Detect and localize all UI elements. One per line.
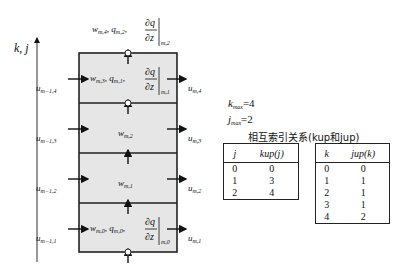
table-row: 21 — [316, 187, 390, 199]
tables-title: 相互索引关系(kup和jup) — [248, 129, 359, 144]
jup-header-k: k — [316, 144, 338, 163]
q-node-mid — [125, 100, 131, 106]
kup-header-kup: kup(j) — [246, 144, 299, 163]
inflow-label-4: um−1,4 — [36, 83, 56, 94]
dq-eval-bottom: m,0 — [161, 239, 170, 245]
kup-header-j: j — [224, 144, 246, 163]
jmax-param: jmax=2 — [228, 113, 253, 126]
dq-numerator-mid: ∂q — [145, 66, 155, 77]
table-row: 00 — [224, 163, 299, 176]
axis-label: k, j — [14, 41, 29, 56]
dq-eval-top: m,2 — [161, 40, 170, 46]
jup-header-jup: jup(k) — [337, 144, 389, 163]
inflow-label-1: um−1,1 — [36, 233, 56, 244]
layer-3-label: wm,2 — [118, 128, 133, 139]
inflow-label-2: um−1,2 — [36, 183, 56, 194]
top-flux-label: wm,4, qm,2, — [92, 24, 127, 35]
layer-2-label: wm,1 — [118, 178, 133, 189]
q-node-bottom — [125, 249, 131, 255]
dq-numerator-top: ∂q — [145, 17, 155, 28]
kmax-param: kmax=4 — [228, 97, 255, 110]
dq-eval-mid: m,1 — [161, 89, 170, 95]
layer-1-label: wm,0, qm,0, — [90, 223, 125, 234]
table-row: 00 — [316, 163, 390, 176]
outflow-label-2: um,2 — [188, 183, 201, 194]
kup-table: j kup(j) 00 13 24 — [223, 143, 299, 200]
outflow-label-3: um,3 — [188, 133, 201, 144]
dq-denominator-bottom: ∂z — [145, 231, 154, 242]
outflow-label-1: um,1 — [188, 233, 201, 244]
dq-denominator-top: ∂z — [145, 32, 154, 43]
dq-denominator-mid: ∂z — [145, 81, 154, 92]
dq-numerator-bottom: ∂q — [145, 216, 155, 227]
outflow-label-4: um,4 — [188, 83, 201, 94]
table-row: 31 — [316, 199, 390, 211]
layer-4-label: wm,3, qm,1, — [90, 73, 125, 84]
inflow-label-3: um−1,3 — [36, 133, 56, 144]
table-row: 11 — [316, 175, 390, 187]
table-row: 42 — [316, 211, 390, 224]
table-row: 24 — [224, 187, 299, 200]
table-row: 13 — [224, 175, 299, 187]
q-node-top — [125, 50, 131, 56]
jup-table: k jup(k) 00 11 21 31 42 — [315, 143, 390, 224]
